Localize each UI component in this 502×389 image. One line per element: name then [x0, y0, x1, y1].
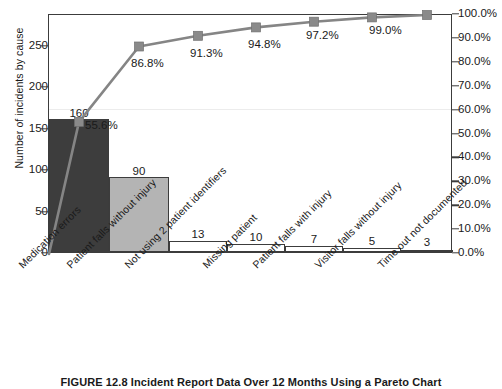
- y-tick-mark-200: [41, 86, 48, 87]
- pct-tick-mark-100: [452, 13, 459, 14]
- bar-time-out-not-documented[interactable]: [401, 250, 453, 253]
- marker-point-5: [368, 13, 377, 22]
- bar-value-label-5: 5: [369, 235, 375, 247]
- figure-caption: FIGURE 12.8 Incident Report Data Over 12…: [0, 376, 502, 388]
- pct-tick-label-10: 10.0%: [458, 223, 491, 235]
- pct-tick-mark-0: [452, 252, 459, 253]
- cumulative-label-0: 55.6%: [85, 119, 118, 131]
- pct-tick-label-50: 50.0%: [458, 128, 491, 140]
- marker-point-4: [310, 17, 319, 26]
- cumulative-label-5: 99.0%: [369, 24, 402, 36]
- faint-gridline: [49, 109, 451, 110]
- bar-value-label-3: 10: [250, 231, 263, 243]
- y-tick-mark-250: [41, 45, 48, 46]
- bar-value-label-4: 7: [311, 233, 317, 245]
- cumulative-label-1: 86.8%: [131, 57, 164, 69]
- pct-tick-label-40: 40.0%: [458, 152, 491, 164]
- pct-tick-mark-70: [452, 85, 459, 86]
- bar-value-label-2: 13: [192, 228, 205, 240]
- pct-tick-label-0: 0.0%: [458, 247, 484, 259]
- pct-tick-mark-20: [452, 204, 459, 205]
- marker-point-2: [194, 31, 203, 40]
- pct-tick-mark-10: [452, 228, 459, 229]
- pct-tick-mark-50: [452, 133, 459, 134]
- bar-value-label-1: 90: [133, 165, 146, 177]
- pct-tick-mark-60: [452, 109, 459, 110]
- pct-tick-label-20: 20.0%: [458, 199, 491, 211]
- bar-value-label-6: 3: [424, 236, 430, 248]
- y-tick-mark-150: [41, 128, 48, 129]
- cumulative-label-4: 97.2%: [306, 29, 339, 41]
- pct-tick-mark-80: [452, 61, 459, 62]
- pareto-chart-figure: Number of incidents by cause 0 50 100 15…: [0, 0, 502, 389]
- pct-tick-mark-40: [452, 157, 459, 158]
- marker-point-6: [423, 11, 432, 20]
- marker-point-1: [135, 42, 144, 51]
- bar-value-label-0: 160: [69, 107, 88, 119]
- pct-tick-label-80: 80.0%: [458, 56, 491, 68]
- y-tick-mark-50: [41, 211, 48, 212]
- y-tick-mark-100: [41, 169, 48, 170]
- pct-tick-label-90: 90.0%: [458, 32, 491, 44]
- pct-tick-label-60: 60.0%: [458, 104, 491, 116]
- cumulative-label-2: 91.3%: [190, 47, 223, 59]
- cumulative-label-3: 94.8%: [248, 38, 281, 50]
- pct-tick-label-70: 70.0%: [458, 80, 491, 92]
- marker-point-3: [252, 23, 261, 32]
- pct-tick-label-100: 100.0%: [458, 8, 497, 20]
- pct-tick-mark-90: [452, 37, 459, 38]
